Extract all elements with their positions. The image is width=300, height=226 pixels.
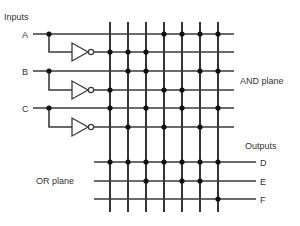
branch-wire-c [49, 108, 72, 127]
or-dot-e-5 [179, 178, 184, 183]
or-dot-d-2 [125, 159, 130, 164]
pla-diagram: Inputs AND plane OR plane Outputs ABCDEF [0, 0, 300, 226]
and-dot-a-4 [161, 31, 166, 36]
and-dot-cbar-2 [125, 124, 130, 129]
and-dot-cbar-4 [161, 124, 166, 129]
outputs-label: Outputs [245, 141, 277, 151]
or-dot-d-3 [143, 159, 148, 164]
and-dot-b-7 [215, 68, 220, 73]
and-dot-abar-3 [143, 49, 148, 54]
and-plane-label: AND plane [240, 76, 284, 86]
branch-dot-a [46, 31, 51, 36]
inverter-bubble-c [88, 124, 93, 129]
or-dot-d-1 [107, 159, 112, 164]
output-label-f: F [260, 195, 266, 205]
or-dot-d-6 [197, 159, 202, 164]
pla-schematic: Inputs AND plane OR plane Outputs ABCDEF [0, 0, 300, 226]
and-dot-cbar-6 [197, 124, 202, 129]
and-dot-a-5 [179, 31, 184, 36]
inverter-bubble-b [88, 87, 93, 92]
and-dot-c-3 [143, 105, 148, 110]
inverter-icon-b [72, 81, 88, 99]
or-dot-d-5 [179, 159, 184, 164]
and-dot-abar-2 [125, 49, 130, 54]
output-label-e: E [260, 177, 266, 187]
and-dot-bbar-1 [107, 87, 112, 92]
and-dot-a-6 [197, 31, 202, 36]
and-dot-b-2 [125, 68, 130, 73]
inverter-icon-c [72, 118, 88, 136]
and-dot-bbar-5 [179, 87, 184, 92]
and-dot-c-5 [179, 105, 184, 110]
inverter-bubble-a [88, 49, 93, 54]
and-dot-bbar-4 [161, 87, 166, 92]
or-plane-label: OR plane [36, 176, 74, 186]
or-dot-d-4 [161, 159, 166, 164]
inputs-label: Inputs [4, 12, 29, 22]
or-dot-f-7 [215, 196, 220, 201]
output-label-d: D [260, 158, 267, 168]
and-dot-b-3 [143, 68, 148, 73]
and-dot-b-6 [197, 68, 202, 73]
branch-wire-a [49, 34, 72, 52]
input-label-b: B [22, 67, 28, 77]
and-dot-c-7 [215, 105, 220, 110]
or-dot-e-3 [143, 178, 148, 183]
or-dot-d-7 [215, 159, 220, 164]
branch-dot-b [46, 68, 51, 73]
branch-dot-c [46, 105, 51, 110]
branch-wire-b [49, 71, 72, 90]
or-dot-e-6 [197, 178, 202, 183]
and-dot-a-7 [215, 31, 220, 36]
and-dot-c-1 [107, 105, 112, 110]
input-label-a: A [22, 30, 28, 40]
inverter-icon-a [72, 43, 88, 61]
input-label-c: C [22, 104, 29, 114]
and-dot-abar-1 [107, 49, 112, 54]
